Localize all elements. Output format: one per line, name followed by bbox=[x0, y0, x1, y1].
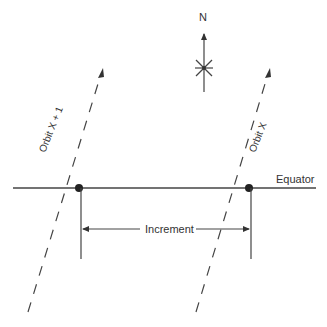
orbit-left-label: Orbit X + 1 bbox=[37, 105, 65, 154]
orbit-right-label: Orbit X bbox=[247, 120, 269, 153]
orbit-right-node bbox=[245, 184, 253, 192]
orbit-left-arrow-icon bbox=[98, 68, 104, 78]
orbit-right-arrow-icon bbox=[265, 68, 271, 78]
orbit-left-node bbox=[75, 184, 83, 192]
increment-label: Increment bbox=[145, 223, 194, 235]
equator-label: Equator bbox=[276, 173, 315, 185]
north-label: N bbox=[199, 11, 207, 23]
orbit-right-track bbox=[196, 74, 268, 312]
north-arrow-icon bbox=[195, 34, 213, 92]
orbit-increment-diagram: N Equator Orbit X + 1 Orbit X Increment bbox=[0, 0, 327, 327]
